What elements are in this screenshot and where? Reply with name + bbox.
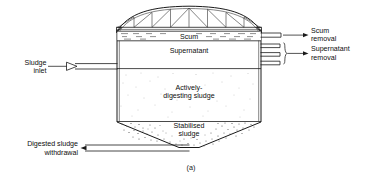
zone-actively-digesting: Actively- digesting sludge xyxy=(121,73,254,118)
supernatant-removal-arrowhead xyxy=(303,51,309,55)
supernatant-brace xyxy=(284,43,287,64)
zone-label-stabilised-line2: sludge xyxy=(179,130,200,138)
figure-container: Scum Supernatant Actively- xyxy=(0,0,370,178)
digested-withdrawal-group: Digested sludge withdrawal xyxy=(27,140,189,156)
scum-removal-group: Scum removal xyxy=(261,27,337,43)
annotation-sludge-inlet-line1: Sludge xyxy=(24,59,46,67)
supernatant-removal-group: Supernatant removal xyxy=(261,43,350,65)
annotation-withdrawal-line2: withdrawal xyxy=(43,149,78,157)
zone-label-scum: Scum xyxy=(180,33,198,41)
truss-vertical-posts xyxy=(134,8,244,27)
digester-diagram: Scum Supernatant Actively- xyxy=(0,0,370,178)
zone-label-digesting-line1: Actively- xyxy=(176,84,203,92)
annotation-supernatant-removal-line2: removal xyxy=(311,54,337,62)
annotation-sludge-inlet-line2: inlet xyxy=(33,67,46,75)
annotation-scum-removal-line2: removal xyxy=(311,35,337,43)
zone-supernatant: Supernatant xyxy=(117,47,261,69)
zone-label-stabilised-line1: Stabilised xyxy=(174,122,205,130)
annotation-supernatant-removal-line1: Supernatant xyxy=(311,45,350,53)
annotation-withdrawal-line1: Digested sludge xyxy=(27,140,78,148)
zone-label-digesting-line2: digesting sludge xyxy=(163,92,214,100)
zone-stabilised: Stabilised sludge xyxy=(117,122,261,147)
roof-truss-group xyxy=(117,6,262,32)
figure-caption: (a) xyxy=(187,163,196,172)
supernatant-draw-off-pipes xyxy=(261,44,281,65)
annotation-scum-removal-line1: Scum xyxy=(311,27,329,35)
zone-label-supernatant: Supernatant xyxy=(170,47,209,55)
withdrawal-arrowhead xyxy=(81,146,87,150)
zone-scum: Scum xyxy=(117,31,261,41)
sludge-inlet-group: Sludge inlet xyxy=(24,59,117,75)
scum-removal-arrowhead xyxy=(303,33,309,37)
